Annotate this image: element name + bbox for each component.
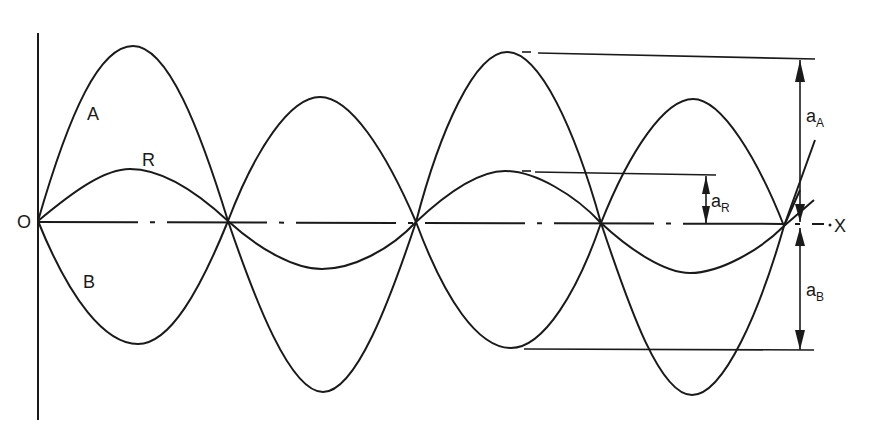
dim-label-aB-sub: B xyxy=(816,290,824,304)
arrowhead-aA-down xyxy=(795,204,805,222)
curve-label-b: B xyxy=(83,272,95,292)
x-axis-label: X xyxy=(834,216,846,236)
dim-aB-bottom-line xyxy=(524,349,814,350)
arrowhead-aB-down xyxy=(795,330,805,350)
curve-b xyxy=(38,190,800,395)
arrowhead-aR-down xyxy=(702,206,710,224)
curve-label-r: R xyxy=(142,150,155,170)
arrowhead-aB-up xyxy=(795,228,805,246)
arrowhead-aA-up xyxy=(795,60,805,82)
dim-aA-top-line xyxy=(538,53,815,59)
dim-label-aR-sub: R xyxy=(721,201,730,215)
x-axis-end-dot xyxy=(829,224,832,227)
curve-label-a: A xyxy=(87,104,99,124)
dim-label-aB: aB xyxy=(806,280,824,304)
arrowhead-aR-up xyxy=(702,176,710,194)
origin-label: O xyxy=(17,212,31,232)
dim-label-aR: aR xyxy=(711,191,730,215)
dim-aR-top-line xyxy=(535,172,716,175)
wave-diagram: A R B O X aA aR aB xyxy=(0,0,870,439)
curve-a xyxy=(38,46,815,226)
dim-label-aA-sub: A xyxy=(816,116,824,130)
dim-label-aA: aA xyxy=(806,106,824,130)
